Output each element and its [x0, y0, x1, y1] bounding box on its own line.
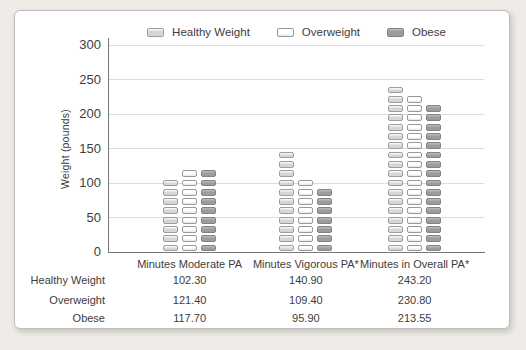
bar-healthy-weight-2	[388, 87, 403, 252]
legend-item-obese: Obese	[387, 26, 446, 38]
bar-segment	[407, 96, 422, 103]
bar-segment	[298, 189, 313, 196]
bar-segment	[182, 245, 197, 252]
bar-segment	[426, 189, 441, 196]
bar-overweight-2	[407, 96, 422, 252]
bar-segment	[407, 161, 422, 168]
bar-segment	[426, 124, 441, 131]
bar-segment	[163, 245, 178, 252]
bar-segment	[182, 198, 197, 205]
bar-segment	[388, 226, 403, 233]
legend-marker-overweight	[277, 28, 294, 37]
bar-obese-2	[426, 105, 441, 251]
legend-label: Obese	[412, 26, 446, 38]
bar-segment	[182, 170, 197, 177]
bar-segment	[201, 189, 216, 196]
table-cell-value: 95.90	[261, 312, 351, 325]
bar-segment	[279, 189, 294, 196]
table-row-label: Obese	[21, 312, 105, 325]
bar-segment	[182, 189, 197, 196]
bar-segment	[426, 198, 441, 205]
bar-segment	[182, 180, 197, 187]
bar-segment	[163, 189, 178, 196]
bar-segment	[407, 105, 422, 112]
bar-segment	[388, 235, 403, 242]
bar-segment	[317, 189, 332, 196]
bar-segment	[279, 207, 294, 214]
bar-segment	[426, 245, 441, 252]
table-cell-value: 243.20	[370, 274, 460, 287]
bar-segment	[407, 226, 422, 233]
chart-card: Healthy Weight Overweight Obese Weight (…	[14, 10, 510, 329]
bar-segment	[388, 180, 403, 187]
bar-segment	[388, 152, 403, 159]
bar-segment	[163, 217, 178, 224]
bar-segment	[426, 217, 441, 224]
bar-segment	[426, 152, 441, 159]
bar-segment	[279, 226, 294, 233]
bar-segment	[407, 133, 422, 140]
bar-healthy-weight-1	[279, 152, 294, 252]
y-axis-tick-label: 50	[45, 210, 101, 225]
bar-segment	[317, 217, 332, 224]
bar-segment	[298, 207, 313, 214]
bar-segment	[317, 235, 332, 242]
bar-segment	[163, 235, 178, 242]
bar-segment	[388, 245, 403, 252]
table-cell-value: 121.40	[145, 294, 235, 307]
table-cell-value: 140.90	[261, 274, 351, 287]
bar-segment	[388, 133, 403, 140]
x-axis-category-label: Minutes in Overall PA*	[335, 258, 495, 270]
bar-segment	[426, 170, 441, 177]
bar-segment	[426, 161, 441, 168]
bar-segment	[426, 235, 441, 242]
bar-segment	[279, 180, 294, 187]
bar-segment	[388, 142, 403, 149]
bar-segment	[182, 217, 197, 224]
bar-segment	[298, 180, 313, 187]
bar-segment	[201, 198, 216, 205]
bar-segment	[317, 245, 332, 252]
bar-segment	[388, 207, 403, 214]
page-background: Healthy Weight Overweight Obese Weight (…	[0, 0, 526, 350]
bar-segment	[388, 124, 403, 131]
y-axis-tick-label: 250	[45, 72, 101, 87]
chart-legend: Healthy Weight Overweight Obese	[109, 24, 484, 40]
bar-overweight-1	[298, 180, 313, 252]
bar-segment	[388, 170, 403, 177]
bar-segment	[407, 245, 422, 252]
bar-segment	[201, 226, 216, 233]
bar-segment	[201, 235, 216, 242]
bar-overweight-0	[182, 170, 197, 251]
bar-segment	[182, 207, 197, 214]
bar-segment	[426, 142, 441, 149]
y-axis-tick-label: 150	[45, 141, 101, 156]
y-axis-tick-label: 0	[45, 244, 101, 259]
bar-segment	[426, 133, 441, 140]
legend-item-overweight: Overweight	[277, 26, 360, 38]
table-row-label: Overweight	[21, 294, 105, 307]
y-axis-line	[108, 38, 110, 252]
bar-segment	[407, 189, 422, 196]
bar-segment	[426, 226, 441, 233]
bar-segment	[407, 124, 422, 131]
bar-segment	[388, 105, 403, 112]
y-axis-tick-label: 100	[45, 175, 101, 190]
bar-segment	[317, 207, 332, 214]
bar-segment	[163, 207, 178, 214]
bar-healthy-weight-0	[163, 180, 178, 252]
bar-segment	[407, 198, 422, 205]
bar-segment	[317, 226, 332, 233]
bar-segment	[426, 207, 441, 214]
table-cell-value: 109.40	[261, 294, 351, 307]
bar-obese-1	[317, 189, 332, 252]
bar-segment	[388, 87, 403, 94]
bar-segment	[201, 245, 216, 252]
x-axis-line	[108, 252, 485, 254]
bar-segment	[388, 198, 403, 205]
table-cell-value: 213.55	[370, 312, 460, 325]
table-cell-value: 230.80	[370, 294, 460, 307]
legend-item-healthy-weight: Healthy Weight	[147, 26, 250, 38]
bar-segment	[407, 152, 422, 159]
bar-segment	[201, 180, 216, 187]
